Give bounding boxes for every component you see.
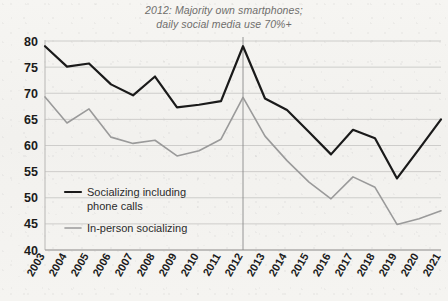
x-tick-label-2004: 2004 <box>46 250 69 278</box>
x-tick-label-2008: 2008 <box>134 251 157 278</box>
y-axis-tick-labels: 404550556065707580 <box>24 35 38 258</box>
x-tick-label-2013: 2013 <box>244 251 267 278</box>
x-tick-label-2012: 2012 <box>222 251 245 278</box>
x-tick-label-2015: 2015 <box>288 251 311 278</box>
line-chart: 2012: Majority own smartphones; daily so… <box>0 0 448 301</box>
y-tick-label-45: 45 <box>24 217 38 231</box>
y-tick-label-80: 80 <box>24 35 38 49</box>
x-tick-label-2006: 2006 <box>90 251 113 278</box>
x-tick-label-2007: 2007 <box>112 251 135 278</box>
x-tick-label-2014: 2014 <box>266 250 289 278</box>
legend-label-1: In-person socializing <box>87 222 187 234</box>
x-axis-tick-labels: 2003200420052006200720082009201020112012… <box>24 250 443 278</box>
x-tick-label-2010: 2010 <box>178 251 201 278</box>
y-tick-label-55: 55 <box>24 165 38 179</box>
y-tick-label-75: 75 <box>24 61 38 75</box>
x-tick-label-2009: 2009 <box>156 251 179 278</box>
legend-label-0: Socializing including <box>87 186 186 198</box>
y-tick-label-65: 65 <box>24 113 38 127</box>
x-tick-label-2011: 2011 <box>200 251 222 278</box>
x-tick-label-2016: 2016 <box>310 251 333 278</box>
chart-legend: Socializing includingphone callsIn-perso… <box>65 186 187 234</box>
y-tick-label-50: 50 <box>24 191 38 205</box>
x-tick-label-2019: 2019 <box>376 251 399 278</box>
x-tick-label-2005: 2005 <box>68 251 91 278</box>
y-tick-label-70: 70 <box>24 87 38 101</box>
x-tick-label-2020: 2020 <box>398 251 421 278</box>
y-tick-label-60: 60 <box>24 139 38 153</box>
legend-label-0-line2: phone calls <box>87 200 143 212</box>
x-tick-label-2021: 2021 <box>420 251 443 278</box>
x-tick-label-2018: 2018 <box>354 251 377 278</box>
x-tick-label-2017: 2017 <box>332 251 355 278</box>
chart-plot-area: 404550556065707580 200320042005200620072… <box>0 0 448 301</box>
